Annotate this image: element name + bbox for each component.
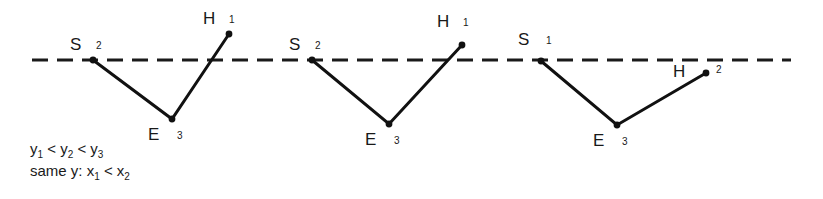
case-3-subscript-e: 3 [622, 137, 628, 147]
case-2-subscript-e: 3 [394, 136, 400, 146]
constraint-term: x2 [117, 162, 130, 179]
case-1-subscript-e: 3 [177, 131, 183, 141]
polyline-group [93, 34, 706, 125]
constraint-term: y3 [90, 140, 103, 157]
case-2-vertex-s-dot [309, 57, 316, 64]
case-3-label-h: H [673, 63, 685, 80]
case-2-label-e: E [365, 131, 376, 148]
constraint-line-1: y1 < y2 < y3 [30, 141, 103, 156]
constraint-term: y1 [30, 140, 43, 157]
constraint-prefix: same y: [30, 162, 87, 179]
case-1-label-e: E [148, 126, 159, 143]
case-2-subscript-s: 2 [315, 41, 321, 51]
case-3-subscript-h: 2 [716, 65, 722, 75]
constraint-operator: < [47, 140, 60, 157]
case-2-vertex-h-dot [459, 42, 466, 49]
constraint-2-text: same y: x1 < x2 [30, 162, 130, 179]
constraint-term: x1 [87, 162, 100, 179]
case-3-subscript-s: 1 [546, 36, 552, 46]
case-2-label-s: S [289, 36, 300, 53]
case-2-label-h: H [437, 13, 449, 30]
case-3-vertex-s-dot [538, 58, 545, 65]
case-1-vertex-e-dot [169, 116, 176, 123]
case-1-label-s: S [70, 36, 81, 53]
case-3-vertex-e-dot [614, 122, 621, 129]
case-1-label-h: H [203, 10, 215, 27]
case-2-vertex-e-dot [386, 121, 393, 128]
constraint-1-text: y1 < y2 < y3 [30, 140, 103, 157]
constraint-operator: < [104, 162, 117, 179]
constraint-term: y2 [60, 140, 73, 157]
case-3-label-e: E [593, 132, 604, 149]
case-2-subscript-h: 1 [463, 18, 469, 28]
case-3-vertex-h-dot [703, 70, 710, 77]
constraint-operator: < [77, 140, 90, 157]
case-1-subscript-s: 2 [96, 41, 102, 51]
case-2-polyline [312, 45, 462, 124]
case-3-label-s: S [518, 31, 529, 48]
case-1-subscript-h: 1 [229, 15, 235, 25]
case-1-vertex-h-dot [226, 31, 233, 38]
case-1-polyline [93, 34, 229, 119]
case-1-vertex-s-dot [90, 57, 97, 64]
constraint-line-2: same y: x1 < x2 [30, 163, 130, 178]
